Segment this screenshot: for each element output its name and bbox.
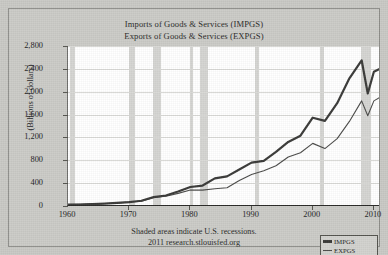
chart-title-exports: Exports of Goods & Services (EXPGS) (9, 31, 379, 41)
y-tick-mark (63, 183, 68, 184)
x-tick-label: 2000 (303, 210, 320, 219)
x-tick-label: 1990 (242, 210, 259, 219)
x-tick-mark (373, 206, 374, 210)
chart-title-imports: Imports of Goods & Services (IMPGS) (9, 19, 379, 29)
y-tick-label: 1,600 (24, 110, 43, 119)
y-tick-label: 0 (39, 201, 43, 210)
x-tick-label: 1970 (120, 210, 137, 219)
y-tick-mark (63, 69, 68, 70)
y-tick-mark (63, 115, 68, 116)
y-tick-label: 2,800 (24, 41, 43, 50)
x-tick-label: 2010 (365, 210, 382, 219)
y-tick-label: 400 (30, 178, 43, 187)
line-imports-imp (68, 60, 379, 204)
legend-item-impgs: IMPGS (323, 237, 375, 246)
x-tick-label: 1960 (59, 210, 76, 219)
y-tick-label: 2,000 (24, 87, 43, 96)
x-tick-mark (251, 206, 252, 210)
series-lines (68, 46, 379, 206)
y-tick-mark (63, 92, 68, 93)
y-tick-label: 1,200 (24, 132, 43, 141)
x-tick-label: 1980 (181, 210, 198, 219)
legend-swatch-expgs-icon (323, 250, 332, 251)
line-exports-exp (68, 97, 379, 204)
y-tick-mark (63, 46, 68, 47)
y-tick-label: 800 (30, 155, 43, 164)
plot-area (67, 46, 379, 206)
y-tick-mark (63, 206, 68, 207)
chart-figure: Imports of Goods & Services (IMPGS) Expo… (0, 0, 388, 255)
x-tick-mark (312, 206, 313, 210)
legend-label-impgs: IMPGS (334, 237, 355, 246)
y-tick-mark (63, 160, 68, 161)
y-tick-label: 2,400 (24, 64, 43, 73)
x-tick-mark (189, 206, 190, 210)
legend-label-expgs: EXPGS (334, 246, 355, 255)
y-tick-mark (63, 137, 68, 138)
chart-frame: Imports of Goods & Services (IMPGS) Expo… (8, 8, 380, 247)
legend-swatch-impgs-icon (323, 240, 332, 242)
legend-item-expgs: EXPGS (323, 246, 375, 255)
chart-legend: IMPGS EXPGS (320, 235, 378, 255)
x-tick-mark (128, 206, 129, 210)
